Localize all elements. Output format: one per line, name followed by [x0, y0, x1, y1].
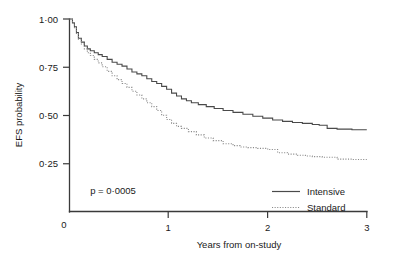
kaplan-meier-figure: 1·00 0·75 0·50 0·25 0 1 2 3 Years from o… — [0, 0, 395, 265]
x-axis-title: Years from on-study — [197, 239, 282, 250]
y-tick-label-100: 1·00 — [39, 14, 58, 25]
y-tick-label-025: 0·25 — [39, 158, 58, 169]
curve-standard — [70, 19, 367, 160]
legend-label-standard: Standard — [307, 202, 346, 213]
legend: Intensive Standard — [272, 186, 346, 213]
legend-label-intensive: Intensive — [307, 186, 345, 197]
y-tick-label-050: 0·50 — [39, 110, 58, 121]
x-tick-label-3: 3 — [364, 222, 369, 233]
chart-canvas: 1·00 0·75 0·50 0·25 0 1 2 3 Years from o… — [0, 0, 395, 265]
y-axis-ticks — [63, 19, 70, 164]
x-tick-label-1: 1 — [166, 222, 171, 233]
curve-intensive — [70, 19, 367, 130]
x-tick-label-2: 2 — [265, 222, 270, 233]
p-value-annotation: p = 0·0005 — [90, 185, 136, 196]
y-axis-title: EFS probability — [13, 83, 24, 148]
x-tick-label-0: 0 — [61, 219, 66, 230]
y-tick-label-075: 0·75 — [39, 62, 58, 73]
